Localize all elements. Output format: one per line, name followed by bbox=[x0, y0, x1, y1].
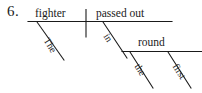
exercise-number: 6. bbox=[7, 4, 19, 19]
diagram-word-preposition-object: round bbox=[138, 37, 165, 49]
sentence-diagram: 6. fighter passed out round The in the f… bbox=[0, 0, 202, 93]
diagram-word-subject: fighter bbox=[35, 8, 66, 20]
diagram-word-predicate: passed out bbox=[96, 8, 144, 20]
